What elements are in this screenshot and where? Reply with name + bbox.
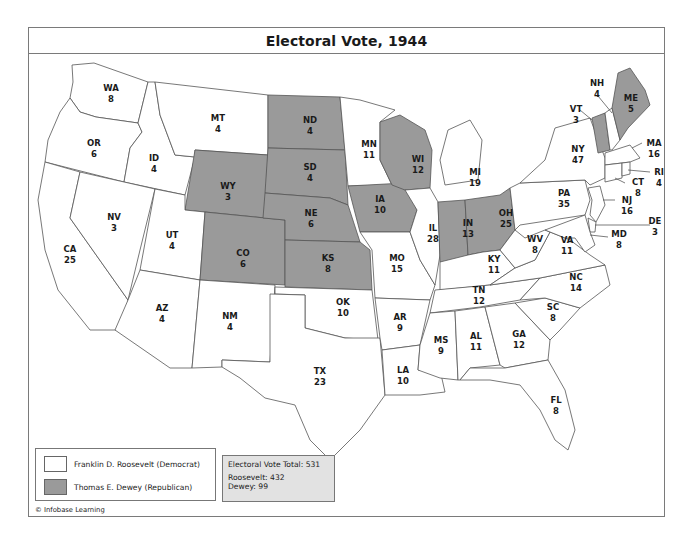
roosevelt-total: Roosevelt: 432 — [228, 473, 329, 482]
svg-text:MI19: MI19 — [469, 167, 481, 188]
svg-text:OK10: OK10 — [336, 297, 350, 318]
leader-ma — [632, 143, 642, 148]
leader-nh — [598, 96, 612, 113]
state-ny[interactable] — [520, 118, 605, 185]
electoral-totals-box: Electoral Vote Total: 531 Roosevelt: 432… — [222, 455, 335, 502]
svg-text:NH4: NH4 — [590, 78, 604, 99]
svg-text:MA16: MA16 — [646, 138, 661, 159]
dewey-swatch — [44, 479, 67, 495]
state-nj[interactable] — [588, 186, 605, 222]
svg-text:IN13: IN13 — [462, 218, 474, 239]
svg-text:TN12: TN12 — [473, 285, 486, 306]
svg-text:OH25: OH25 — [499, 208, 513, 229]
leader-ri — [628, 170, 650, 172]
leader-md — [590, 235, 608, 237]
svg-text:MO15: MO15 — [389, 253, 405, 274]
legend-item-roosevelt: Franklin D. Roosevelt (Democrat) — [44, 456, 200, 472]
legend-label-roosevelt: Franklin D. Roosevelt (Democrat) — [74, 460, 200, 469]
svg-text:NJ16: NJ16 — [621, 195, 633, 216]
state-ct[interactable] — [605, 163, 622, 182]
svg-text:PA35: PA35 — [558, 188, 570, 209]
svg-text:DE3: DE3 — [649, 216, 662, 237]
state-fl[interactable] — [460, 360, 575, 450]
svg-text:MD8: MD8 — [611, 229, 627, 250]
total-votes: Electoral Vote Total: 531 — [228, 460, 329, 469]
credit-line: © Infobase Learning — [35, 506, 105, 514]
roosevelt-swatch — [44, 456, 67, 472]
svg-text:TX23: TX23 — [314, 366, 327, 387]
state-ri[interactable] — [622, 162, 630, 176]
svg-text:WI12: WI12 — [412, 154, 425, 175]
svg-text:CT8: CT8 — [632, 177, 644, 198]
svg-text:IA10: IA10 — [374, 194, 386, 215]
svg-text:VA11: VA11 — [561, 235, 574, 256]
svg-text:CA25: CA25 — [64, 244, 77, 265]
svg-text:AL11: AL11 — [470, 331, 483, 352]
state-nm[interactable] — [192, 280, 275, 368]
legend: Franklin D. Roosevelt (Democrat) Thomas … — [35, 448, 216, 501]
svg-text:RI4: RI4 — [654, 167, 664, 188]
svg-text:GA12: GA12 — [512, 329, 526, 350]
svg-text:KY11: KY11 — [488, 254, 502, 275]
svg-text:LA10: LA10 — [397, 365, 409, 386]
svg-text:NC14: NC14 — [569, 272, 582, 293]
dewey-total: Dewey: 99 — [228, 482, 329, 491]
svg-text:MN11: MN11 — [361, 139, 377, 160]
svg-text:NY47: NY47 — [571, 144, 585, 165]
svg-text:IL28: IL28 — [427, 223, 439, 244]
legend-item-dewey: Thomas E. Dewey (Republican) — [44, 479, 192, 495]
legend-label-dewey: Thomas E. Dewey (Republican) — [74, 483, 192, 492]
